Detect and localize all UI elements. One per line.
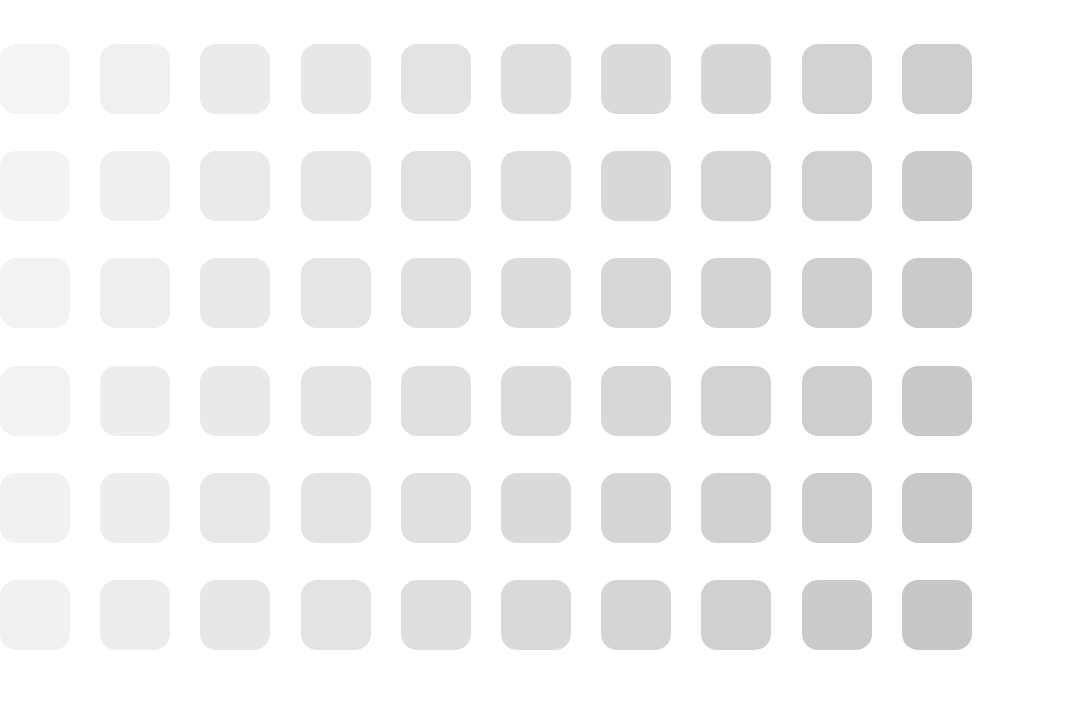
- swatch-cell: [501, 473, 571, 543]
- swatch-cell: [401, 151, 471, 221]
- swatch-cell: [902, 473, 972, 543]
- swatch-cell: [0, 151, 70, 221]
- swatch-row: [0, 366, 1075, 436]
- swatch-cell: [802, 258, 872, 328]
- swatch-cell: [401, 44, 471, 114]
- swatch-cell: [501, 258, 571, 328]
- swatch-cell: [100, 258, 170, 328]
- swatch-cell: [0, 258, 70, 328]
- swatch-cell: [401, 580, 471, 650]
- swatch-cell: [401, 258, 471, 328]
- swatch-cell: [501, 151, 571, 221]
- swatch-cell: [501, 44, 571, 114]
- swatch-cell: [902, 151, 972, 221]
- swatch-cell: [802, 44, 872, 114]
- swatch-cell: [100, 580, 170, 650]
- swatch-cell: [301, 366, 371, 436]
- swatch-cell: [100, 44, 170, 114]
- swatch-cell: [200, 44, 270, 114]
- swatch-cell: [200, 366, 270, 436]
- swatch-cell: [301, 258, 371, 328]
- swatch-cell: [301, 473, 371, 543]
- swatch-cell: [601, 258, 671, 328]
- swatch-cell: [902, 366, 972, 436]
- swatch-row: [0, 580, 1075, 650]
- swatch-cell: [0, 44, 70, 114]
- swatch-cell: [601, 151, 671, 221]
- swatch-cell: [301, 151, 371, 221]
- swatch-cell: [601, 580, 671, 650]
- swatch-cell: [802, 366, 872, 436]
- swatch-cell: [0, 580, 70, 650]
- swatch-cell: [200, 473, 270, 543]
- swatch-cell: [0, 366, 70, 436]
- swatch-cell: [701, 473, 771, 543]
- swatch-cell: [100, 366, 170, 436]
- swatch-cell: [601, 44, 671, 114]
- swatch-cell: [401, 473, 471, 543]
- swatch-cell: [701, 366, 771, 436]
- swatch-cell: [802, 580, 872, 650]
- swatch-cell: [802, 151, 872, 221]
- swatch-row: [0, 258, 1075, 328]
- swatch-cell: [301, 44, 371, 114]
- swatch-row: [0, 44, 1075, 114]
- swatch-cell: [802, 473, 872, 543]
- swatch-cell: [301, 580, 371, 650]
- swatch-cell: [100, 151, 170, 221]
- swatch-grid: [0, 0, 1075, 724]
- swatch-cell: [501, 580, 571, 650]
- swatch-cell: [902, 44, 972, 114]
- swatch-row: [0, 151, 1075, 221]
- swatch-cell: [200, 580, 270, 650]
- swatch-cell: [501, 366, 571, 436]
- swatch-cell: [100, 473, 170, 543]
- swatch-cell: [601, 473, 671, 543]
- swatch-row: [0, 473, 1075, 543]
- swatch-cell: [601, 366, 671, 436]
- swatch-cell: [200, 151, 270, 221]
- swatch-cell: [902, 580, 972, 650]
- swatch-cell: [0, 473, 70, 543]
- swatch-cell: [401, 366, 471, 436]
- swatch-cell: [902, 258, 972, 328]
- swatch-cell: [701, 44, 771, 114]
- swatch-cell: [701, 151, 771, 221]
- swatch-cell: [701, 580, 771, 650]
- swatch-cell: [701, 258, 771, 328]
- swatch-cell: [200, 258, 270, 328]
